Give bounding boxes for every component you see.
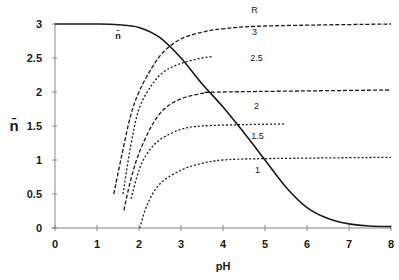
- r-legend-label: R: [251, 5, 258, 15]
- y-axis-title: n̄: [9, 117, 18, 134]
- y-tick-label: 0: [36, 222, 42, 234]
- x-tick-label: 6: [304, 238, 310, 250]
- x-tick-label: 2: [136, 238, 142, 250]
- series-group: [55, 24, 391, 228]
- axes: 01234567800.511.522.53: [27, 18, 394, 250]
- series-label: 2: [254, 101, 259, 111]
- series-line-r-1: [140, 157, 391, 228]
- y-axis-title-text: n̄: [9, 117, 18, 134]
- series-label: 2.5: [250, 53, 263, 63]
- series-line-r-2.5: [123, 57, 213, 194]
- x-tick-label: 7: [346, 238, 352, 250]
- y-tick-label: 1.5: [27, 120, 42, 132]
- x-tick-label: 4: [220, 238, 227, 250]
- series-label: 3: [252, 27, 257, 37]
- y-tick-label: 1: [36, 154, 42, 166]
- series-line-r-3: [114, 24, 391, 194]
- y-tick-label: 2: [36, 86, 42, 98]
- x-tick-label: 8: [388, 238, 394, 250]
- y-tick-label: 3: [36, 18, 42, 30]
- formation-curve-chart: 01234567800.511.522.53 32.521.51Rn̄ pH n…: [0, 0, 399, 280]
- labels-group: 32.521.51Rn̄: [115, 5, 263, 175]
- y-tick-label: 2.5: [27, 52, 42, 64]
- x-tick-label: 3: [178, 238, 184, 250]
- x-tick-label: 5: [262, 238, 268, 250]
- x-tick-label: 1: [94, 238, 100, 250]
- nbar-curve-label: n̄: [115, 31, 121, 41]
- x-tick-label: 0: [52, 238, 58, 250]
- x-axis-title: pH: [216, 260, 231, 272]
- series-label: 1.5: [251, 131, 264, 141]
- y-tick-label: 0.5: [27, 188, 42, 200]
- series-label: 1: [255, 165, 260, 175]
